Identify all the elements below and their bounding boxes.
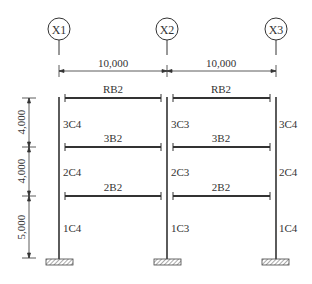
grid-bubble-x2: X2 bbox=[156, 18, 178, 55]
beam-label-l2-2: 2B2 bbox=[212, 181, 230, 193]
beam-label-l2-1: 2B2 bbox=[104, 181, 122, 193]
grid-label-x2: X2 bbox=[160, 23, 175, 37]
grid-label-x3: X3 bbox=[269, 23, 284, 37]
height-label-story2: 4,000 bbox=[15, 158, 27, 183]
frame-elevation-diagram: X1 X2 X3 10,000 10,000 4,000 bbox=[0, 0, 312, 284]
height-label-story3: 4,000 bbox=[15, 109, 27, 134]
beam-label-l3-2: 3B2 bbox=[212, 132, 230, 144]
column-label-1-x1: 1C4 bbox=[63, 222, 82, 234]
column-label-3-x1: 3C4 bbox=[63, 118, 82, 130]
column-label-2-x3: 2C4 bbox=[279, 166, 298, 178]
support-icon-x3 bbox=[262, 259, 289, 265]
columns bbox=[59, 97, 276, 259]
beam-label-roof-2: RB2 bbox=[211, 83, 231, 95]
column-label-2-x2: 2C3 bbox=[171, 166, 190, 178]
grid-bubble-x1: X1 bbox=[48, 18, 70, 55]
span-dimension-line bbox=[59, 65, 276, 77]
span-label-1: 10,000 bbox=[98, 57, 129, 69]
span-label-2: 10,000 bbox=[206, 57, 237, 69]
support-icon-x2 bbox=[154, 259, 181, 265]
beam-label-l3-1: 3B2 bbox=[104, 132, 122, 144]
column-label-2-x1: 2C4 bbox=[63, 166, 82, 178]
grid-bubble-x3: X3 bbox=[265, 18, 287, 55]
column-label-3-x2: 3C3 bbox=[171, 118, 190, 130]
support-icon-x1 bbox=[46, 259, 73, 265]
beam-label-roof-1: RB2 bbox=[103, 83, 123, 95]
column-label-1-x3: 1C4 bbox=[279, 222, 298, 234]
column-label-1-x2: 1C3 bbox=[171, 222, 190, 234]
height-label-story1: 5,000 bbox=[15, 214, 27, 239]
column-label-3-x3: 3C4 bbox=[279, 118, 298, 130]
fixed-supports bbox=[46, 259, 289, 265]
grid-label-x1: X1 bbox=[52, 23, 67, 37]
